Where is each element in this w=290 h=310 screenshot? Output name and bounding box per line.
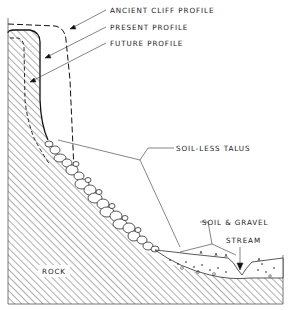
label-stream: STREAM — [226, 236, 261, 245]
cliff-profile-diagram: ROCK ANCIENT CLIFF PROFILE PRESENT PROFI… — [0, 0, 290, 310]
label-present-profile: PRESENT PROFILE — [110, 23, 188, 32]
label-soil-less-talus: SOIL-LESS TALUS — [176, 144, 250, 153]
label-ancient-cliff-profile: ANCIENT CLIFF PROFILE — [110, 6, 214, 15]
label-rock: ROCK — [38, 265, 70, 277]
rock-body — [8, 18, 283, 304]
label-soil-and-gravel: SOIL & GRAVEL — [202, 218, 268, 227]
svg-text:ROCK: ROCK — [42, 267, 66, 276]
label-future-profile: FUTURE PROFILE — [110, 39, 183, 48]
